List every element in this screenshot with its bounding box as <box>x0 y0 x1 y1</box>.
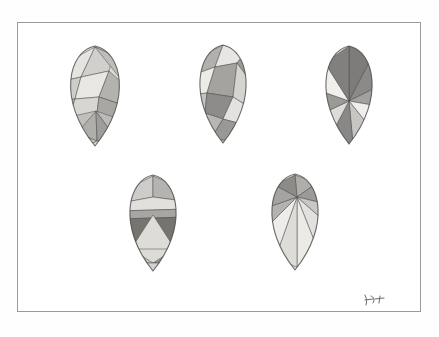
artist-signature <box>362 292 388 308</box>
egg-top-center <box>187 45 257 143</box>
egg-bottom-right <box>261 174 331 270</box>
facet <box>59 113 77 133</box>
facet <box>117 197 189 211</box>
artwork-canvas <box>18 23 420 311</box>
egg-top-right <box>315 46 385 144</box>
artboard <box>0 0 439 337</box>
facet <box>117 247 131 263</box>
artwork-frame <box>17 22 421 312</box>
facet <box>187 111 205 131</box>
facet <box>123 263 183 271</box>
egg-bottom-left <box>117 175 189 271</box>
